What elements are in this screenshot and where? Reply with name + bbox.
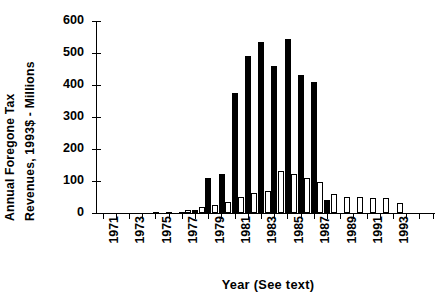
bar-hollow xyxy=(278,171,284,213)
bar-hollow xyxy=(251,193,257,213)
y-axis-tick-label: 100 xyxy=(63,174,84,187)
bar-hollow xyxy=(265,191,271,213)
x-axis-tick-label: 1991 xyxy=(371,216,385,244)
x-axis-tick-label: 1973 xyxy=(133,216,147,244)
x-axis-title: Year (See text) xyxy=(96,277,439,292)
y-axis-tick xyxy=(92,85,101,86)
y-axis-tick-label: 0 xyxy=(77,206,84,219)
bar-solid xyxy=(245,56,251,213)
x-axis-tick-label: 1987 xyxy=(318,216,332,244)
bar-solid xyxy=(153,212,159,213)
bar-solid xyxy=(179,212,185,213)
x-axis-tick-label: 1981 xyxy=(239,216,253,244)
x-axis-tick-label: 1977 xyxy=(186,216,200,244)
y-axis-title-line-2: Revenues, 1993$ - Millions xyxy=(23,61,37,221)
y-axis-tick-label: 400 xyxy=(63,78,84,91)
bar-hollow xyxy=(317,182,323,213)
bar-hollow xyxy=(370,198,376,213)
x-axis-tick-label: 1993 xyxy=(397,216,411,244)
x-axis-tick-label: 1979 xyxy=(213,216,227,244)
bar-solid xyxy=(298,75,304,213)
bar-solid xyxy=(232,93,238,213)
y-axis-tick xyxy=(92,149,101,150)
bar-hollow xyxy=(212,205,218,213)
bar-hollow xyxy=(383,198,389,213)
bar-solid xyxy=(311,82,317,213)
y-axis-tick xyxy=(92,117,101,118)
x-axis-tick-label: 1989 xyxy=(345,216,359,244)
bar-solid xyxy=(192,210,198,213)
bar-hollow xyxy=(397,203,403,213)
x-axis-tick-label: 1971 xyxy=(107,216,121,244)
bar-solid xyxy=(205,178,211,213)
bar-hollow xyxy=(304,178,310,213)
x-axis-tick-labels: 1971197319751977197919811983198519871989… xyxy=(96,216,439,274)
bar-solid xyxy=(219,174,225,213)
y-axis-tick-label: 500 xyxy=(63,46,84,59)
y-axis-tick xyxy=(92,53,101,54)
bar-hollow xyxy=(225,202,231,213)
y-axis-tick-labels: 0100200300400500600 xyxy=(46,0,89,225)
bar-solid xyxy=(166,212,172,213)
y-axis-tick-label: 600 xyxy=(63,14,84,27)
y-axis-tick xyxy=(92,181,101,182)
bar-hollow xyxy=(291,174,297,213)
x-axis-tick-label: 1983 xyxy=(265,216,279,244)
bar-hollow xyxy=(331,194,337,213)
plot-area xyxy=(96,21,439,213)
bar-solid xyxy=(271,66,277,213)
bar-solid xyxy=(324,200,330,213)
chart-figure: Annual Foregone Tax Revenues, 1993$ - Mi… xyxy=(0,0,439,302)
bar-hollow xyxy=(199,207,205,213)
y-axis-tick-label: 200 xyxy=(63,142,84,155)
bar-hollow xyxy=(357,197,363,213)
y-axis-title-line-1: Annual Foregone Tax xyxy=(3,94,17,222)
bar-solid xyxy=(285,39,291,213)
y-axis-tick xyxy=(92,21,101,22)
bar-hollow xyxy=(185,210,191,213)
y-axis-tick-label: 300 xyxy=(63,110,84,123)
bar-solid xyxy=(258,42,264,213)
x-axis-line xyxy=(96,213,435,214)
x-axis-tick-label: 1985 xyxy=(292,216,306,244)
bar-hollow xyxy=(344,197,350,213)
y-axis-tick xyxy=(92,213,101,214)
y-axis-title: Annual Foregone Tax Revenues, 1993$ - Mi… xyxy=(0,0,46,225)
x-axis-tick-label: 1975 xyxy=(160,216,174,244)
bar-hollow xyxy=(238,197,244,213)
